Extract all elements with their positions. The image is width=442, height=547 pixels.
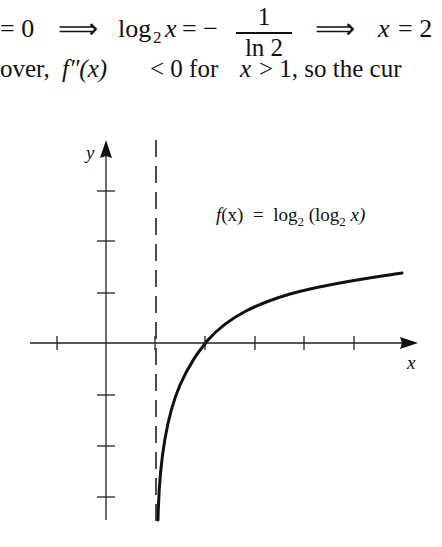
x-axis-arrow-icon <box>400 337 418 349</box>
func-label-body: (x) = log <box>221 204 297 225</box>
function-label: f(x) = log2 (log2 x) <box>216 204 365 230</box>
y-axis-arrow-icon <box>100 140 112 158</box>
func-label-paren: (log <box>304 204 339 225</box>
function-curve <box>158 273 402 520</box>
y-axis-label-text: y <box>86 142 94 164</box>
x-axis-label-text: x <box>407 352 415 374</box>
function-graph <box>0 0 442 547</box>
func-label-end: x) <box>346 204 366 225</box>
